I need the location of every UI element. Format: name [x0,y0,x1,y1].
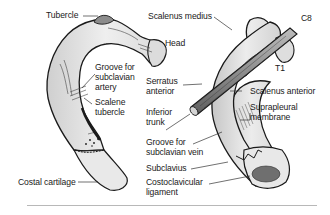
label-costoclavicular-line1: Costoclavicular [146,178,203,187]
label-costal-cartilage: Costal cartilage [18,178,76,187]
label-tubercle: Tubercle [46,11,78,20]
leader-serratus [183,84,202,85]
leader-groove-artery [82,74,95,88]
label-scalenus-medius: Scalenus medius [148,12,212,21]
left-costal-cartilage [74,150,127,190]
label-inferior-trunk-line1: Inferior [146,108,172,117]
label-scalene-tubercle-line1: Scalene [95,98,125,107]
label-subclavius: Subclavius [146,164,187,173]
label-groove-vein-line2: subclavian vein [146,148,203,157]
label-serratus-anterior-line2: anterior [146,87,174,96]
left-rib-head [148,40,166,67]
label-groove-artery-line2: subclavian [95,73,135,82]
leader-scalenus-medius [214,17,232,30]
leader-costoclavicular [209,176,250,184]
label-groove-vein-line1: Groove for [146,138,186,147]
label-groove-artery-line1: Groove for [95,63,135,72]
first-rib-diagram: Tubercle Groove for subclavian artery Sc… [0,0,330,215]
label-t1: T1 [275,64,285,73]
leader-subclavius [191,162,228,169]
label-scalenus-anterior: Scalenus anterior [250,87,315,96]
bottom-divider [27,205,317,206]
label-c8: C8 [301,14,312,23]
label-serratus-anterior-line1: Serratus [146,77,178,86]
label-suprapleural-line1: Suprapleural [250,103,298,112]
costoclavicular-ligament-patch [252,166,280,182]
label-suprapleural-line2: membrane [250,113,290,122]
leader-groove-vein [193,132,222,144]
label-scalene-tubercle-line2: tubercle [95,108,125,117]
label-inferior-trunk-line2: trunk [146,118,165,127]
leader-scalene-tubercle [84,98,92,104]
label-groove-artery-line3: artery [95,83,116,92]
label-costoclavicular-line2: ligament [146,188,178,197]
label-head: Head [165,39,185,48]
